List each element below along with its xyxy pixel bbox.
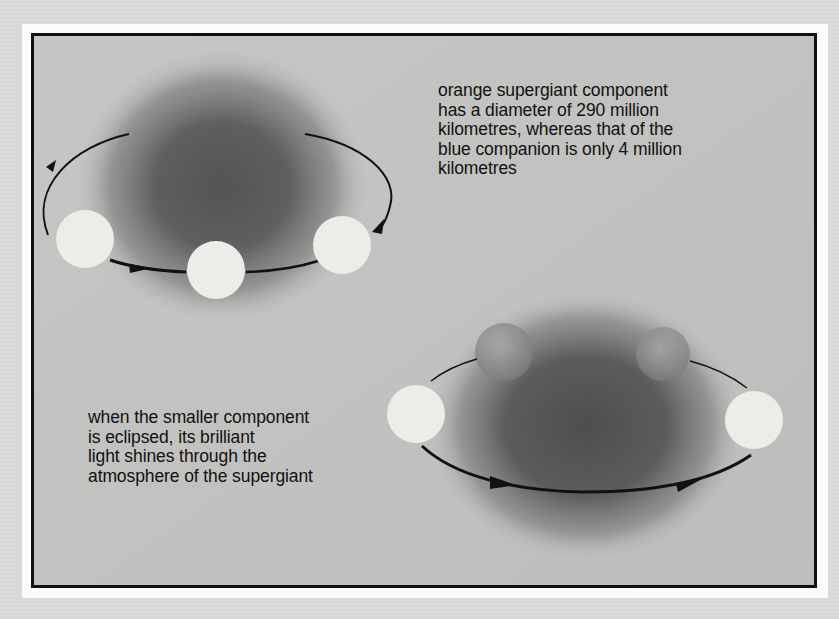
supergiant-glow-lower <box>424 288 748 564</box>
caption-line: orange supergiant component <box>438 81 682 101</box>
caption-line: blue companion is only 4 million <box>438 140 682 160</box>
blue-companion-front <box>187 241 245 299</box>
caption-line: kilometres <box>438 159 682 179</box>
eclipsed-companion-right <box>636 327 690 381</box>
eclipsed-companion-left <box>475 323 533 381</box>
caption-supergiant-diameter: orange supergiant component has a diamet… <box>438 81 682 179</box>
caption-line: atmosphere of the supergiant <box>88 467 313 487</box>
diagram-frame: orange supergiant component has a diamet… <box>31 33 817 588</box>
caption-line: kilometres, whereas that of the <box>438 120 682 140</box>
caption-line: when the smaller component <box>88 408 313 428</box>
caption-line: has a diameter of 290 million <box>438 101 682 121</box>
diagram-illustration <box>34 36 814 585</box>
blue-companion-left <box>56 210 114 268</box>
blue-companion-right <box>313 216 371 274</box>
caption-line: light shines through the <box>88 447 313 467</box>
caption-line: is eclipsed, its brilliant <box>88 428 313 448</box>
blue-companion-left <box>387 385 445 443</box>
caption-eclipse: when the smaller component is eclipsed, … <box>88 408 313 486</box>
blue-companion-right <box>725 391 783 449</box>
